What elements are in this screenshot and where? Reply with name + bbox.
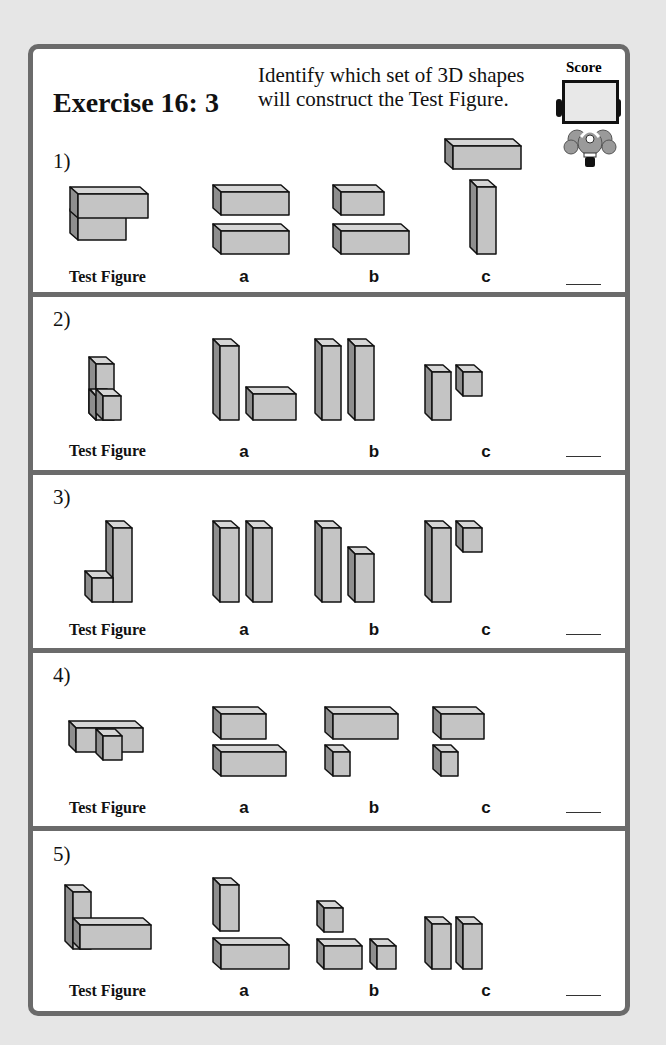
- test-figure-label: Test Figure: [69, 621, 146, 639]
- instruction-line-2: will construct the Test Figure.: [258, 87, 525, 111]
- option-a-label: a: [229, 442, 259, 462]
- option-c-shapes-2: [423, 363, 493, 427]
- option-b-shapes-3: [313, 519, 393, 609]
- option-c-shapes-1: [443, 137, 527, 261]
- question-number: 2): [53, 307, 71, 332]
- test-figure-1: [68, 185, 158, 247]
- question-number: 5): [53, 842, 71, 867]
- instruction-line-1: Identify which set of 3D shapes: [258, 63, 525, 87]
- answer-blank-5[interactable]: [566, 995, 601, 996]
- test-figure-5: [63, 883, 159, 963]
- instructions: Identify which set of 3D shapes will con…: [258, 63, 525, 111]
- option-b-label: b: [359, 798, 389, 818]
- section-divider: [33, 292, 625, 297]
- option-b-label: b: [359, 620, 389, 640]
- question-number: 3): [53, 485, 71, 510]
- option-b-shapes-4: [323, 705, 407, 783]
- option-c-label: c: [471, 267, 501, 287]
- option-b-label: b: [359, 981, 389, 1001]
- option-a-shapes-3: [211, 519, 291, 609]
- section-divider: [33, 470, 625, 475]
- question-number: 4): [53, 663, 71, 688]
- test-figure-label: Test Figure: [69, 442, 146, 460]
- option-a-label: a: [229, 981, 259, 1001]
- option-a-label: a: [229, 798, 259, 818]
- section-divider: [33, 648, 625, 653]
- test-figure-label: Test Figure: [69, 982, 146, 1000]
- option-a-shapes-1: [211, 183, 295, 261]
- section-divider: [33, 826, 625, 831]
- option-c-label: c: [471, 798, 501, 818]
- option-b-shapes-2: [313, 337, 393, 427]
- option-c-shapes-3: [423, 519, 503, 609]
- option-a-shapes-2: [211, 337, 311, 427]
- test-figure-2: [88, 355, 133, 427]
- test-figure-4: [66, 719, 152, 769]
- option-c-label: c: [471, 981, 501, 1001]
- question-number: 1): [53, 149, 71, 174]
- mascot-icon: [559, 121, 621, 169]
- exercise-title: Exercise 16: 3: [53, 87, 219, 119]
- answer-blank-2[interactable]: [566, 456, 601, 457]
- answer-blank-1[interactable]: [566, 284, 601, 285]
- score-box[interactable]: [562, 80, 619, 124]
- option-a-label: a: [229, 267, 259, 287]
- option-a-shapes-4: [211, 705, 295, 783]
- worksheet-frame: Exercise 16: 3 Identify which set of 3D …: [28, 44, 630, 1016]
- option-a-shapes-5: [211, 876, 295, 972]
- option-a-label: a: [229, 620, 259, 640]
- test-figure-3: [83, 519, 143, 609]
- option-c-label: c: [471, 442, 501, 462]
- option-b-label: b: [359, 267, 389, 287]
- option-b-shapes-5: [315, 899, 415, 973]
- option-c-label: c: [471, 620, 501, 640]
- option-c-shapes-4: [431, 705, 515, 783]
- test-figure-label: Test Figure: [69, 799, 146, 817]
- score-label: Score: [566, 59, 602, 76]
- option-b-shapes-1: [331, 183, 415, 261]
- test-figure-label: Test Figure: [69, 268, 146, 286]
- option-c-shapes-5: [423, 915, 495, 973]
- option-b-label: b: [359, 442, 389, 462]
- answer-blank-3[interactable]: [566, 634, 601, 635]
- answer-blank-4[interactable]: [566, 812, 601, 813]
